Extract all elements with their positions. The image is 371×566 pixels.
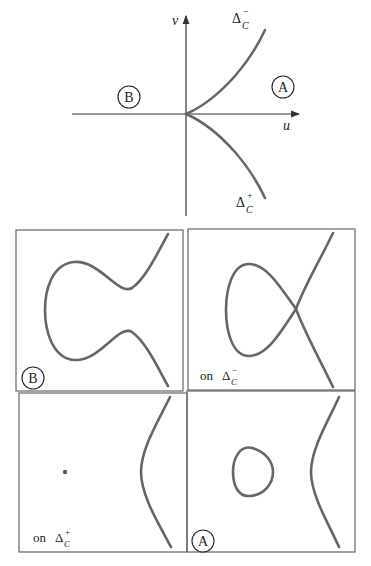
v-axis-label: v (172, 13, 179, 28)
region-B-label: B (118, 86, 140, 108)
svg-text:+: + (65, 527, 70, 537)
svg-text:C: C (64, 539, 71, 549)
svg-text:A: A (278, 80, 289, 95)
svg-text:−: − (243, 6, 249, 17)
region-A-label: A (272, 76, 294, 98)
svg-text:Δ: Δ (55, 530, 63, 545)
figure: u v B A Δ − C Δ + C B on (0, 0, 371, 566)
panel-label-on: on (33, 530, 47, 545)
svg-text:Δ: Δ (236, 195, 245, 210)
svg-text:+: + (247, 190, 253, 201)
svg-text:Δ: Δ (222, 368, 230, 383)
svg-text:C: C (246, 204, 253, 215)
parameter-plane: u v B A Δ − C Δ + C (72, 6, 299, 216)
panel-on-delta-plus: on Δ + C (19, 393, 187, 552)
discriminant-branch-minus (186, 30, 265, 114)
delta-minus-label: Δ − C (232, 6, 249, 31)
panel-B-label: B (28, 371, 37, 386)
u-axis-label: u (283, 118, 290, 133)
connected-curve (45, 234, 168, 386)
panel-region-A: A (187, 391, 355, 552)
svg-text:C: C (231, 377, 238, 387)
panel-label-on: on (200, 368, 214, 383)
unbounded-branch (141, 397, 171, 547)
oval-component (233, 448, 273, 496)
isolated-point (63, 470, 67, 474)
svg-text:−: − (232, 365, 237, 375)
svg-text:C: C (242, 20, 249, 31)
discriminant-branch-plus (186, 114, 265, 198)
svg-text:B: B (124, 90, 133, 105)
panel-on-delta-minus: on Δ − C (188, 229, 355, 390)
panel-region-B: B (16, 230, 183, 391)
delta-plus-label: Δ + C (236, 190, 253, 215)
svg-text:Δ: Δ (232, 11, 241, 26)
unbounded-branch (311, 397, 339, 547)
nodal-curve (226, 233, 333, 387)
panel-A-label: A (198, 534, 209, 549)
